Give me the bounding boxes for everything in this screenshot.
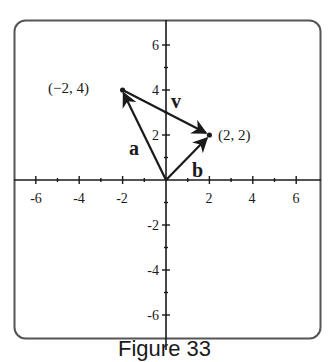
x-tick-label: -6 bbox=[30, 191, 42, 206]
point-2-2 bbox=[207, 132, 212, 137]
vector-label-b: b bbox=[192, 159, 203, 181]
y-tick-label: 2 bbox=[152, 128, 159, 143]
y-tick-label: 6 bbox=[152, 38, 159, 53]
point-label-2-2: (2, 2) bbox=[218, 127, 251, 144]
x-tick-label: -4 bbox=[73, 191, 85, 206]
x-tick-label: 6 bbox=[293, 191, 300, 206]
figure-caption: Figure 33 bbox=[0, 336, 329, 362]
point-neg2-4 bbox=[120, 87, 125, 92]
y-tick-label: 4 bbox=[152, 83, 159, 98]
vector-label-a: a bbox=[129, 137, 139, 159]
y-tick-label: -2 bbox=[147, 218, 159, 233]
vector-v bbox=[123, 90, 206, 133]
vector-label-v: v bbox=[171, 90, 181, 112]
x-tick-label: 4 bbox=[249, 191, 256, 206]
y-tick-label: -6 bbox=[147, 308, 159, 323]
point-label-neg2-4: (−2, 4) bbox=[48, 80, 89, 97]
y-tick-label: -4 bbox=[147, 263, 159, 278]
x-tick-label: -2 bbox=[116, 191, 128, 206]
x-tick-label: 2 bbox=[206, 191, 213, 206]
